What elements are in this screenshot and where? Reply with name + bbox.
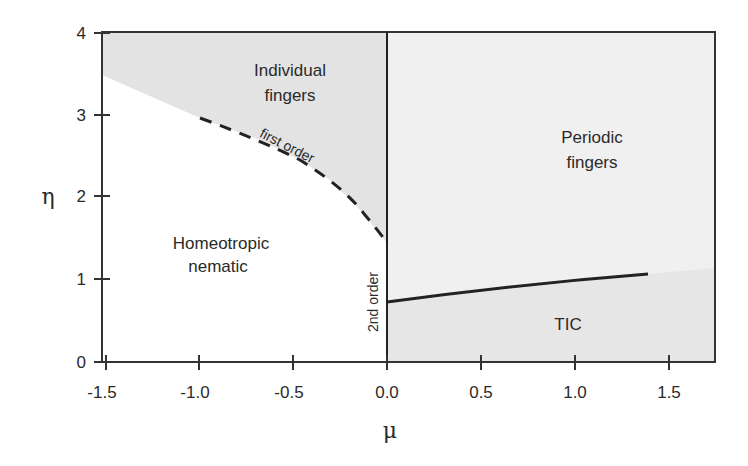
y-tick-label: 0 [77, 353, 86, 372]
x-tick-label: -1.5 [87, 383, 116, 402]
y-axis-title: η [41, 184, 54, 209]
label-periodic-fingers: Periodic [561, 128, 623, 147]
x-tick-label: 0.5 [469, 383, 493, 402]
y-tick-label: 4 [77, 24, 86, 43]
label-tic: TIC [554, 315, 581, 334]
label-periodic-fingers: fingers [566, 153, 617, 172]
y-tick-label: 2 [77, 187, 86, 206]
label-individual-fingers: Individual [254, 61, 326, 80]
label-individual-fingers: fingers [264, 86, 315, 105]
y-tick-label: 3 [77, 106, 86, 125]
annotation-second-order: 2nd order [365, 272, 381, 332]
y-tick-label: 1 [77, 270, 86, 289]
label-homeotropic-nematic: nematic [188, 257, 248, 276]
region-individual-fingers [102, 32, 387, 243]
x-axis-title: μ [383, 418, 397, 443]
x-tick-label: 1.5 [657, 383, 681, 402]
x-tick-label: 1.0 [563, 383, 587, 402]
region-periodic-fingers [387, 32, 715, 302]
x-tick-label: -1.0 [180, 383, 209, 402]
label-homeotropic-nematic: Homeotropic [173, 234, 270, 253]
phase-diagram: 0 1 2 3 4 -1.5 -1.0 -0.5 0.0 0.5 1.0 1.5… [0, 0, 748, 466]
x-tick-label: -0.5 [274, 383, 303, 402]
x-tick-label: 0.0 [375, 383, 399, 402]
